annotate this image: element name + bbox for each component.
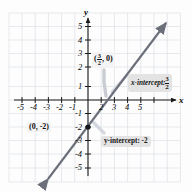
x-tick-label--3: -3: [43, 103, 50, 112]
graph-figure: -5 -4 -3 -2 -1 2 3 4 5 5 4 3 2 1 -1 -2 -…: [0, 0, 192, 192]
x-tick-label--4: -4: [30, 103, 37, 112]
y-tick-label--2: -2: [75, 123, 82, 132]
y-tick-label--4: -4: [75, 150, 82, 159]
x-intercept-callout-text: x-intercept:: [131, 79, 165, 87]
plotted-line: [48, 23, 166, 179]
y-tick-label-2: 2: [78, 63, 82, 72]
x-tick-label-3: 3: [112, 103, 116, 112]
x-tick-label-5: 5: [138, 103, 142, 112]
x-axis-label: x: [179, 96, 184, 105]
x-tick-label--2: -2: [56, 103, 63, 112]
x-tick-label-2: 2: [99, 103, 103, 112]
y-intercept-callout: y-intercept: -2: [101, 136, 151, 147]
y-intercept-dot: [85, 124, 90, 129]
x-intercept-point-label: (32, 0): [92, 52, 115, 67]
point-suffix: , 0: [102, 54, 110, 63]
callout-fraction-numerator: 3: [165, 76, 169, 83]
y-tick-label--1: -1: [75, 109, 82, 118]
y-tick-label-3: 3: [78, 49, 82, 58]
paren-close: ): [110, 54, 113, 63]
y-tick-label-5: 5: [78, 22, 82, 31]
x-intercept-pointer: [104, 70, 106, 96]
fraction-denominator: 2: [97, 59, 102, 66]
y-axis-label: y: [84, 8, 88, 17]
y-tick-label-4: 4: [78, 36, 82, 45]
coordinate-plane: [0, 0, 192, 192]
y-tick-label-1: 1: [78, 82, 82, 91]
x-intercept-callout-fraction: 32: [165, 76, 169, 90]
y-intercept-callout-pointer: [93, 122, 104, 133]
x-intercept-callout: x-intercept:32: [128, 74, 172, 92]
fraction-three-halves: 32: [97, 53, 102, 66]
x-tick-label-4: 4: [125, 103, 129, 112]
callout-fraction-denominator: 2: [165, 83, 169, 91]
y-intercept-point-label: (0, -2): [27, 122, 51, 132]
y-tick-label--5: -5: [75, 163, 82, 172]
y-tick-label--3: -3: [75, 136, 82, 145]
x-tick-label--5: -5: [17, 103, 24, 112]
